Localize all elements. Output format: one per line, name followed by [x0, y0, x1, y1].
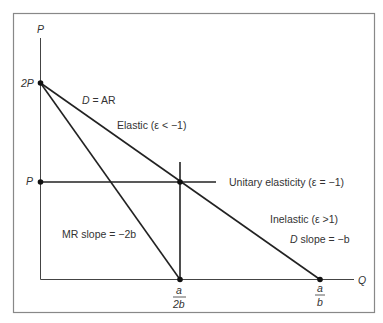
point-p	[38, 179, 44, 185]
point-unitary	[177, 179, 183, 185]
y-tick-p: P	[26, 175, 33, 187]
demand-label: D = AR	[82, 94, 116, 106]
demand-label-rest: = AR	[90, 94, 116, 106]
x-tick-a-over-b: a b	[315, 282, 325, 308]
y-tick-2p: 2P	[20, 77, 34, 89]
x-tick-a-over-b-denominator: b	[317, 296, 323, 308]
point-a-over-b	[317, 277, 323, 283]
mr-slope-label: MR slope = −2b	[62, 228, 136, 240]
d-slope-label: D slope = −b	[290, 233, 350, 245]
point-2p	[38, 80, 44, 86]
elastic-label: Elastic (ε < −1)	[117, 119, 186, 131]
y-axis-label: P	[37, 23, 44, 35]
point-a-over-2b	[177, 277, 183, 283]
x-tick-a-over-2b-numerator: a	[176, 284, 182, 296]
d-slope-rest: slope = −b	[298, 233, 350, 245]
unitary-label: Unitary elasticity (ε = −1)	[229, 176, 344, 188]
figure-frame	[14, 14, 375, 313]
diagram: P Q 2P P a 2b a b D = AR Elastic (ε < −1…	[0, 0, 383, 323]
x-tick-a-over-2b-denominator: 2b	[172, 298, 185, 310]
inelastic-label: Inelastic (ε >1)	[270, 213, 338, 225]
x-axis-label: Q	[358, 274, 366, 286]
x-tick-a-over-b-numerator: a	[317, 282, 323, 294]
x-tick-a-over-2b: a 2b	[172, 284, 186, 310]
